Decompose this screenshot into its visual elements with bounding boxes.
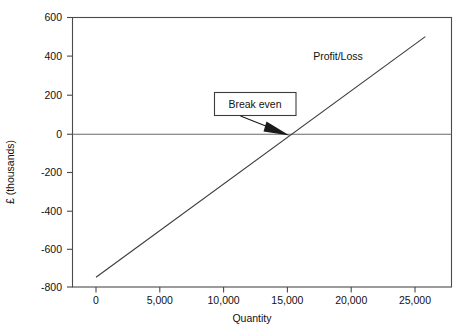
y-tick-label-neg400: -400: [41, 205, 62, 217]
y-tick-label-neg200: -200: [41, 166, 62, 178]
break-even-arrow-shaft: [241, 116, 270, 128]
profit-loss-label: Profit/Loss: [313, 50, 363, 62]
profit-loss-line: [96, 37, 425, 278]
chart-canvas: 600 400 200 0 -200 -400 -600 -800 0 5,00…: [0, 0, 467, 334]
y-tick-label-neg800: -800: [41, 281, 62, 293]
x-axis-title: Quantity: [232, 312, 272, 324]
y-tick-label-neg600: -600: [41, 243, 62, 255]
x-tick-label-0: 0: [93, 294, 99, 306]
y-tick-label-400: 400: [44, 50, 62, 62]
y-tick-label-0: 0: [56, 128, 62, 140]
break-even-callout-label: Break even: [228, 98, 281, 110]
break-even-chart-figure: 600 400 200 0 -200 -400 -600 -800 0 5,00…: [0, 0, 467, 334]
y-tick-label-600: 600: [44, 11, 62, 23]
x-tick-label-10000: 10,000: [208, 294, 240, 306]
plot-frame: [73, 18, 452, 288]
x-axis-ticks: [96, 287, 415, 293]
break-even-arrow-head: [264, 122, 290, 136]
y-axis-ticks: [67, 18, 73, 288]
y-tick-label-200: 200: [44, 89, 62, 101]
x-tick-label-5000: 5,000: [147, 294, 173, 306]
y-axis-title: £ (thousands): [4, 140, 16, 204]
x-tick-label-25000: 25,000: [399, 294, 431, 306]
x-tick-label-15000: 15,000: [271, 294, 303, 306]
x-tick-label-20000: 20,000: [335, 294, 367, 306]
